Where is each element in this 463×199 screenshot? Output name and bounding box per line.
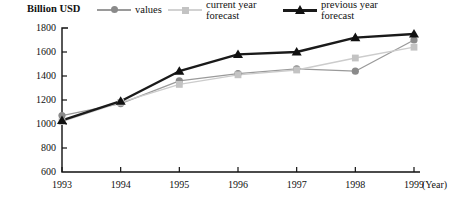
y-axis-tick-label: 1800 [22, 22, 56, 33]
chart-axis-lines [62, 28, 420, 172]
y-axis-tick-label: 600 [22, 166, 56, 177]
data-point-marker [352, 55, 359, 62]
x-axis-tick-label: 1994 [101, 179, 141, 190]
x-axis-tick-label: 1993 [42, 179, 82, 190]
x-axis-tick-label: 1996 [218, 179, 258, 190]
x-axis-tick-label: 1998 [335, 179, 375, 190]
data-point-marker [293, 67, 300, 74]
data-point-marker [176, 81, 183, 88]
data-point-marker [352, 68, 359, 75]
y-axis-tick-label: 1400 [22, 70, 56, 81]
data-point-marker [411, 44, 418, 51]
x-axis-unit-label: (Year) [422, 179, 447, 190]
chart-root: Billion USD values current year forecast… [0, 0, 463, 199]
x-axis-tick-label: 1997 [277, 179, 317, 190]
y-axis-tick-label: 1600 [22, 46, 56, 57]
x-axis-tick-label: 1995 [159, 179, 199, 190]
y-axis-tick-label: 1200 [22, 94, 56, 105]
chart-plot-area [0, 0, 463, 199]
series-line-2 [62, 47, 414, 121]
y-axis-tick-label: 1000 [22, 118, 56, 129]
data-point-marker [235, 71, 242, 78]
chart-canvas [0, 0, 463, 199]
y-axis-tick-label: 800 [22, 142, 56, 153]
